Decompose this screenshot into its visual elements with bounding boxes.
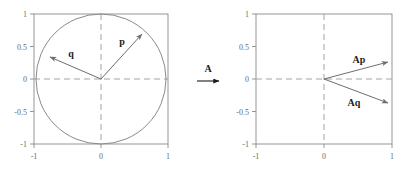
right-plot-y-ticks [252,14,256,144]
left-xtick-0: 0 [99,152,103,161]
transform-operator: A [197,63,219,81]
right-xtick-0: 0 [322,152,326,161]
left-plot-x-ticks [34,144,168,148]
right-xtick-1: 1 [390,152,394,161]
left-ytick-1: 1 [23,10,27,19]
right-ytick-neg1: -1 [242,140,249,149]
left-plot-y-ticks [30,14,34,144]
figure-canvas: 1 0.5 0 -0.5 -1 -1 0 1 p q A [0,0,412,174]
operator-label-A: A [204,63,212,74]
vector-Aq-label: Aq [348,97,361,108]
left-ytick-neg1: -1 [20,140,27,149]
left-xtick-neg1: -1 [31,152,38,161]
right-xtick-neg1: -1 [253,152,260,161]
left-ytick-0: 0 [23,75,27,84]
right-plot-x-ticks [256,144,392,148]
right-ytick-0p5: 0.5 [239,43,249,52]
vector-q-label: q [68,48,74,59]
vector-p-label: p [119,36,125,47]
right-ytick-0: 0 [245,75,249,84]
vector-Ap-label: Ap [353,54,366,65]
right-ytick-neg0p5: -0.5 [236,108,249,117]
left-ytick-0p5: 0.5 [17,43,27,52]
left-plot: 1 0.5 0 -0.5 -1 -1 0 1 p q [14,10,170,161]
right-ytick-1: 1 [245,10,249,19]
left-xtick-1: 1 [166,152,170,161]
left-ytick-neg0p5: -0.5 [14,108,27,117]
linear-transformation-figure: 1 0.5 0 -0.5 -1 -1 0 1 p q A [0,0,412,174]
vector-q-arrow [50,57,101,79]
right-plot: 1 0.5 0 -0.5 -1 -1 0 1 Ap Aq [236,10,394,161]
